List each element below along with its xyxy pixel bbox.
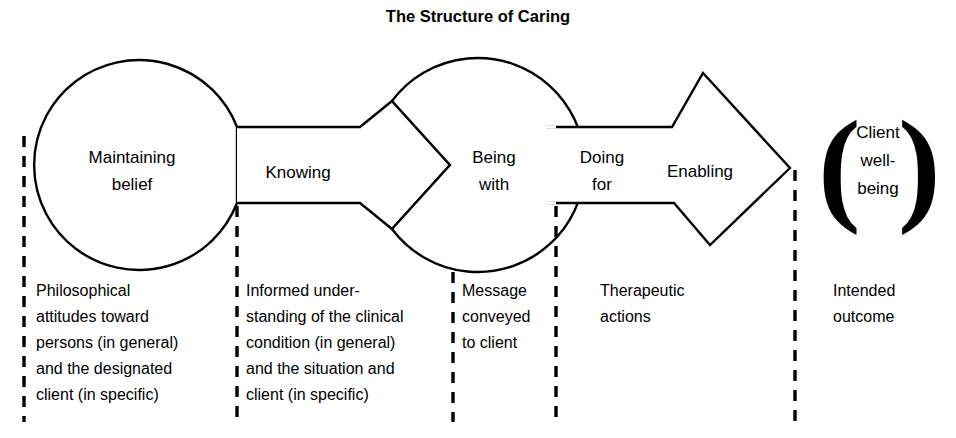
desc-2-line-1: Informed under- bbox=[246, 282, 360, 299]
desc-1-line-1: Philosophical bbox=[36, 282, 130, 299]
desc-4-line-2: actions bbox=[600, 308, 651, 325]
desc-being-with: Message conveyed to client bbox=[462, 282, 531, 351]
desc-3-line-2: conveyed bbox=[462, 308, 531, 325]
label-client-well-being-line1: Client bbox=[856, 123, 900, 142]
desc-2-line-4: and the situation and bbox=[246, 360, 395, 377]
label-client-well-being-line2: well- bbox=[860, 151, 896, 170]
label-client-well-being-line3: being bbox=[857, 179, 899, 198]
diagram-title: The Structure of Caring bbox=[386, 7, 570, 25]
desc-maintaining-belief: Philosophical attitudes toward persons (… bbox=[36, 282, 178, 403]
desc-1-line-4: and the designated bbox=[36, 360, 172, 377]
desc-2-line-3: condition (in general) bbox=[246, 334, 395, 351]
label-enabling: Enabling bbox=[667, 162, 733, 181]
diagram-canvas: The Structure of Caring Maintaining beli… bbox=[0, 0, 956, 438]
desc-client-well-being: Intended outcome bbox=[833, 282, 895, 325]
label-maintaining-belief-line2: belief bbox=[112, 175, 153, 194]
desc-5-line-2: outcome bbox=[833, 308, 894, 325]
desc-1-line-2: attitudes toward bbox=[36, 308, 149, 325]
label-being-with-line2: with bbox=[478, 175, 509, 194]
desc-1-line-3: persons (in general) bbox=[36, 334, 178, 351]
desc-knowing: Informed under- standing of the clinical… bbox=[246, 282, 403, 403]
open-paren-icon: ( bbox=[818, 94, 861, 236]
label-being-with-line1: Being bbox=[472, 148, 515, 167]
desc-3-line-1: Message bbox=[462, 282, 527, 299]
desc-2-line-5: client (in specific) bbox=[246, 386, 369, 403]
desc-2-line-2: standing of the clinical bbox=[246, 308, 403, 325]
label-maintaining-belief-line1: Maintaining bbox=[89, 148, 176, 167]
desc-1-line-5: client (in specific) bbox=[36, 386, 159, 403]
close-paren-icon: ) bbox=[898, 94, 941, 236]
desc-doing-for-enabling: Therapeutic actions bbox=[600, 282, 685, 325]
label-knowing: Knowing bbox=[265, 163, 330, 182]
desc-4-line-1: Therapeutic bbox=[600, 282, 685, 299]
desc-5-line-1: Intended bbox=[833, 282, 895, 299]
desc-3-line-3: to client bbox=[462, 334, 518, 351]
structure-of-caring-diagram: The Structure of Caring Maintaining beli… bbox=[0, 0, 956, 438]
label-doing-for-line2: for bbox=[592, 175, 612, 194]
label-doing-for-line1: Doing bbox=[580, 148, 624, 167]
